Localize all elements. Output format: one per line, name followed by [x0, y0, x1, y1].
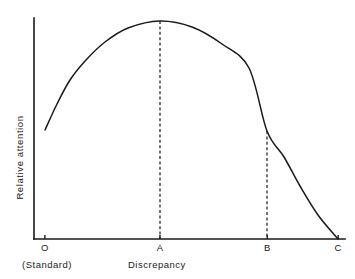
attention-curve [45, 21, 338, 239]
standard-annotation: (Standard) [22, 259, 72, 270]
x-tick-label-o: O [30, 242, 60, 253]
x-tick-label-c: C [323, 242, 353, 253]
y-axis-title: Relative attention [14, 103, 25, 213]
x-tick-label-a: A [145, 242, 175, 253]
x-axis-title: Discrepancy [128, 259, 186, 270]
chart-figure: O A B C (Standard) Discrepancy Relative … [0, 0, 355, 279]
x-tick-label-b: B [252, 242, 282, 253]
chart-plot-area [0, 0, 355, 279]
